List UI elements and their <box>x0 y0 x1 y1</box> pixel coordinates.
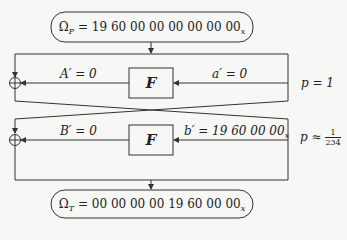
probability-round1: p = 1 <box>301 76 334 90</box>
probability-fraction: 1 234 <box>325 128 340 147</box>
output-diff-B: B′ = 0 <box>60 124 97 138</box>
input-diff-a: a′ = 0 <box>212 67 247 81</box>
probability-round2: p ≈ 1 234 <box>300 128 341 147</box>
omega-symbol: Ω <box>59 197 69 211</box>
ciphertext-value: = 00 00 00 00 19 60 00 00 <box>78 197 241 211</box>
omega-symbol: Ω <box>59 20 69 34</box>
f-function-label-2: F <box>129 131 173 149</box>
output-diff-A: A′ = 0 <box>60 67 97 81</box>
plaintext-value: = 19 60 00 00 00 00 00 00 <box>78 20 241 34</box>
f-function-label-1: F <box>129 74 173 92</box>
ciphertext-label: ΩT = 00 00 00 00 19 60 00 00x <box>51 197 253 216</box>
plaintext-label: ΩP = 19 60 00 00 00 00 00 00x <box>51 20 253 39</box>
input-diff-b: b′ = 19 60 00 00x <box>184 124 289 143</box>
